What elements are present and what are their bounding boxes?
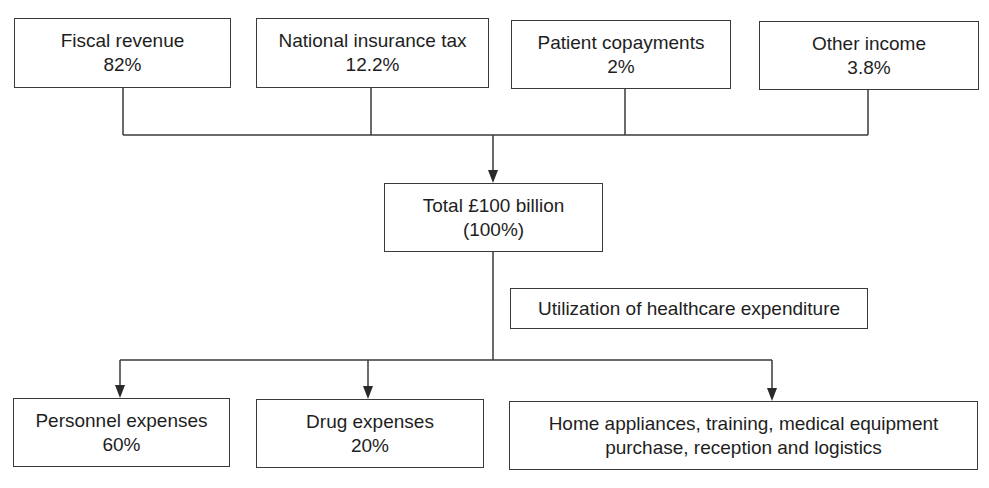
source-value: 12.2% xyxy=(346,53,400,77)
source-value: 3.8% xyxy=(847,56,890,80)
arrow-down-icon xyxy=(767,388,777,401)
total-value: (100%) xyxy=(463,218,524,242)
use-value: 20% xyxy=(351,434,389,458)
use-value: 60% xyxy=(102,433,140,457)
source-label: Other income xyxy=(812,32,926,56)
arrow-down-icon xyxy=(363,386,373,399)
source-label: National insurance tax xyxy=(279,29,467,53)
use-label: Home appliances, training, medical equip… xyxy=(549,412,939,436)
utilization-label: Utilization of healthcare expenditure xyxy=(538,297,840,321)
arrow-down-icon xyxy=(115,385,125,398)
use-box-drug-expenses: Drug expenses 20% xyxy=(256,399,484,468)
source-box-patient-copayments: Patient copayments 2% xyxy=(511,20,731,89)
total-label: Total £100 billion xyxy=(423,194,565,218)
source-label: Fiscal revenue xyxy=(61,29,185,53)
source-box-other-income: Other income 3.8% xyxy=(759,21,979,90)
use-value: purchase, reception and logistics xyxy=(605,436,882,460)
source-box-fiscal-revenue: Fiscal revenue 82% xyxy=(14,18,231,88)
use-box-equipment-logistics: Home appliances, training, medical equip… xyxy=(509,401,978,470)
use-label: Personnel expenses xyxy=(35,409,207,433)
use-box-personnel-expenses: Personnel expenses 60% xyxy=(13,398,230,467)
source-value: 2% xyxy=(607,55,634,79)
total-box: Total £100 billion (100%) xyxy=(384,183,603,252)
source-value: 82% xyxy=(103,53,141,77)
source-label: Patient copayments xyxy=(538,31,705,55)
source-box-national-insurance-tax: National insurance tax 12.2% xyxy=(256,18,489,88)
use-label: Drug expenses xyxy=(306,410,434,434)
arrow-down-icon xyxy=(488,170,498,183)
utilization-label-box: Utilization of healthcare expenditure xyxy=(510,288,868,329)
